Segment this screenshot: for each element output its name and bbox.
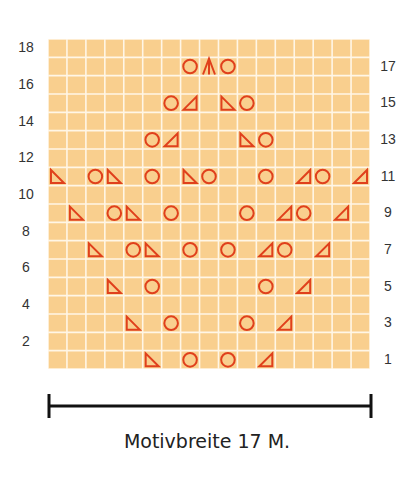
yarn-over-icon [145, 170, 159, 184]
row-label-17: 17 [376, 58, 400, 74]
row-label-3: 3 [376, 314, 400, 330]
left-decrease-icon [184, 97, 197, 110]
yarn-over-icon [221, 243, 235, 257]
right-decrease-icon [89, 243, 102, 256]
row-label-7: 7 [376, 241, 400, 257]
chart-svg [48, 39, 370, 369]
yarn-over-icon [126, 243, 140, 257]
row-label-9: 9 [376, 204, 400, 220]
left-decrease-icon [278, 317, 291, 330]
motif-width-caption: Motivbreite 17 M. [0, 430, 414, 452]
right-decrease-icon [240, 133, 253, 146]
yarn-over-icon [164, 316, 178, 330]
right-decrease-icon [108, 280, 121, 293]
left-decrease-icon [316, 243, 329, 256]
right-decrease-icon [184, 170, 197, 183]
right-decrease-icon [108, 170, 121, 183]
yarn-over-icon [240, 96, 254, 110]
row-label-10: 10 [14, 186, 38, 202]
left-decrease-icon [278, 207, 291, 220]
left-decrease-icon [165, 133, 178, 146]
right-decrease-icon [51, 170, 64, 183]
left-decrease-icon [354, 170, 367, 183]
yarn-over-icon [164, 96, 178, 110]
row-label-4: 4 [14, 296, 38, 312]
right-decrease-icon [127, 317, 140, 330]
right-decrease-icon [221, 97, 234, 110]
row-label-2: 2 [14, 333, 38, 349]
row-label-13: 13 [376, 131, 400, 147]
yarn-over-icon [240, 316, 254, 330]
row-label-8: 8 [14, 223, 38, 239]
row-label-18: 18 [14, 39, 38, 55]
yarn-over-icon [183, 60, 197, 74]
motif-width-bracket [47, 390, 373, 420]
knitting-chart-grid [48, 39, 370, 369]
row-label-16: 16 [14, 76, 38, 92]
right-decrease-icon [70, 207, 83, 220]
left-decrease-icon [297, 170, 310, 183]
row-label-14: 14 [14, 113, 38, 129]
yarn-over-icon [145, 280, 159, 294]
row-label-1: 1 [376, 351, 400, 367]
yarn-over-icon [89, 170, 103, 184]
row-label-5: 5 [376, 278, 400, 294]
yarn-over-icon [145, 133, 159, 147]
left-decrease-icon [297, 280, 310, 293]
row-label-6: 6 [14, 259, 38, 275]
row-label-15: 15 [376, 94, 400, 110]
yarn-over-icon [202, 170, 216, 184]
yarn-over-icon [183, 353, 197, 367]
right-decrease-icon [146, 353, 159, 366]
yarn-over-icon [164, 206, 178, 220]
yarn-over-icon [316, 170, 330, 184]
yarn-over-icon [221, 60, 235, 74]
yarn-over-icon [183, 243, 197, 257]
row-label-12: 12 [14, 149, 38, 165]
right-decrease-icon [127, 207, 140, 220]
yarn-over-icon [297, 206, 311, 220]
yarn-over-icon [221, 353, 235, 367]
left-decrease-icon [259, 243, 272, 256]
left-decrease-icon [259, 353, 272, 366]
left-decrease-icon [335, 207, 348, 220]
yarn-over-icon [259, 133, 273, 147]
yarn-over-icon [259, 170, 273, 184]
yarn-over-icon [107, 206, 121, 220]
row-label-11: 11 [376, 168, 400, 184]
yarn-over-icon [259, 280, 273, 294]
yarn-over-icon [240, 206, 254, 220]
right-decrease-icon [146, 243, 159, 256]
yarn-over-icon [278, 243, 292, 257]
